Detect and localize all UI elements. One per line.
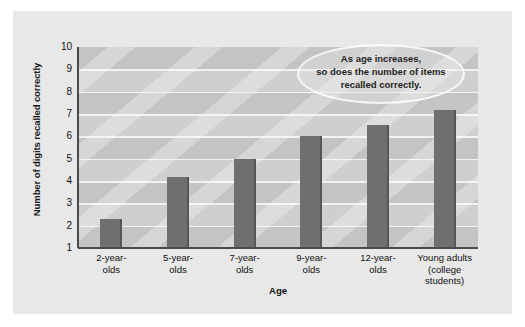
bar (167, 177, 189, 248)
x-tick-label-line: Young adults (401, 252, 488, 264)
background-band (78, 203, 478, 225)
x-tick-label: Young adults(collegestudents) (401, 252, 488, 287)
background-band (78, 136, 478, 158)
background-band (78, 114, 478, 136)
y-tick-label: 9 (56, 64, 72, 74)
y-tick-label: 3 (56, 198, 72, 208)
x-axis-title: Age (78, 285, 478, 296)
y-axis-title: Number of digits recalled correctly (31, 40, 42, 240)
y-tick-label: 10 (56, 42, 72, 52)
bar-chart-figure: Number of digits recalled correctly 1098… (0, 0, 525, 327)
x-axis-tick-labels: 2-year-olds5-year-olds7-year-olds9-year-… (78, 252, 478, 312)
gridline (78, 181, 478, 183)
callout-line-1: As age increases, (297, 52, 465, 65)
y-tick-label: 6 (56, 131, 72, 141)
gridline (78, 203, 478, 205)
y-tick-label: 7 (56, 109, 72, 119)
gridline (78, 136, 478, 138)
bar (367, 125, 389, 248)
y-axis-tick-labels: 10987654321 (44, 0, 72, 327)
gridline (78, 226, 478, 228)
trend-callout-text: As age increases, so does the number of … (297, 52, 465, 91)
bar (100, 219, 122, 248)
gridline (78, 114, 478, 116)
background-band (78, 226, 478, 248)
callout-line-3: recalled correctly. (297, 78, 465, 91)
background-band (78, 159, 478, 181)
callout-line-2: so does the number of items (297, 65, 465, 78)
y-tick-label: 2 (56, 221, 72, 231)
bar (434, 110, 456, 248)
y-tick-label: 5 (56, 154, 72, 164)
x-axis-line (78, 247, 478, 249)
y-tick-label: 4 (56, 176, 72, 186)
bar (300, 136, 322, 248)
y-axis-line (77, 47, 79, 248)
y-tick-label: 8 (56, 87, 72, 97)
x-tick-label-line: (college (401, 264, 488, 276)
bar (234, 159, 256, 248)
background-band (78, 181, 478, 203)
gridline (78, 159, 478, 161)
